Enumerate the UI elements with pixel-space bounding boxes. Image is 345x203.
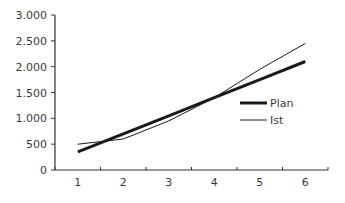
y-tick-label: 500: [26, 138, 47, 151]
x-tick-label: 4: [211, 176, 218, 189]
x-tick-label: 5: [256, 176, 263, 189]
legend-label-plan: Plan: [270, 97, 293, 110]
y-axis: 05001.0001.5002.0002.5003.000: [16, 9, 56, 177]
y-tick-label: 1.500: [16, 87, 48, 100]
y-tick-label: 2.000: [16, 61, 48, 74]
y-tick-label: 0: [40, 164, 47, 177]
y-tick-label: 3.000: [16, 9, 48, 22]
line-chart: 05001.0001.5002.0002.5003.000 123456 Pla…: [0, 0, 345, 203]
y-tick-label: 1.000: [16, 112, 48, 125]
x-axis: 123456: [55, 167, 328, 189]
x-tick-label: 2: [120, 176, 127, 189]
y-tick-label: 2.500: [16, 35, 48, 48]
legend-label-ist: Ist: [270, 114, 284, 127]
x-tick-label: 1: [74, 176, 81, 189]
x-tick-label: 6: [302, 176, 309, 189]
legend: PlanIst: [240, 97, 293, 127]
series-line-ist: [78, 43, 305, 144]
x-tick-label: 3: [165, 176, 172, 189]
